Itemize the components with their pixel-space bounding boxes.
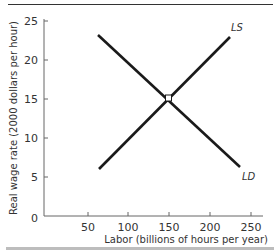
x-axis-title: Labor (billions of hours per year) (104, 234, 268, 245)
y-ticks (44, 21, 48, 177)
y-tick-15: 15 (24, 93, 38, 106)
x-tick-200: 200 (200, 221, 221, 234)
equilibrium-point (166, 95, 172, 101)
y-tick-20: 20 (24, 54, 38, 67)
x-tick-150: 150 (159, 221, 180, 234)
y-axis-title: Real wage rate (2000 dollars per hour) (8, 21, 19, 215)
ld-label: LD (242, 171, 256, 182)
y-tick-5: 5 (31, 171, 38, 184)
y-tick-25: 25 (24, 15, 38, 28)
labor-supply-curve (99, 37, 230, 169)
x-ticks (88, 212, 251, 216)
labor-market-chart: 25 20 15 10 5 0 50 100 150 200 250 Labor… (0, 0, 277, 252)
x-tick-50: 50 (81, 221, 95, 234)
x-tick-labels: 50 100 150 200 250 (81, 221, 262, 234)
ls-label: LS (231, 22, 244, 33)
y-tick-10: 10 (24, 132, 38, 145)
origin-label: 0 (31, 212, 38, 225)
bottom-rule (6, 247, 274, 250)
x-tick-100: 100 (118, 221, 139, 234)
y-tick-labels: 25 20 15 10 5 0 (24, 15, 38, 225)
x-tick-250: 250 (241, 221, 262, 234)
